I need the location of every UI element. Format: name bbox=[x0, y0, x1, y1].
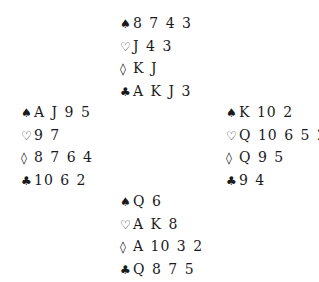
diamond-icon: ◊ bbox=[120, 236, 131, 259]
club-icon: ♣ bbox=[120, 81, 131, 104]
heart-icon: ♡ bbox=[120, 36, 131, 59]
east-hearts: ♡Q 10 6 5 2 bbox=[226, 124, 319, 147]
hand-west: ♠A J 9 5 ♡9 7 ◊8 7 6 4 ♣10 6 2 bbox=[21, 101, 93, 191]
diamond-icon: ◊ bbox=[21, 147, 32, 170]
south-hearts-cards: A K 8 bbox=[133, 213, 178, 236]
diamond-icon: ◊ bbox=[226, 147, 237, 170]
west-hearts: ♡9 7 bbox=[21, 124, 93, 147]
south-spades: ♠Q 6 bbox=[120, 190, 203, 213]
south-clubs-cards: Q 8 7 5 bbox=[133, 258, 195, 281]
west-hearts-cards: 9 7 bbox=[34, 124, 60, 147]
south-hearts: ♡A K 8 bbox=[120, 213, 203, 236]
west-spades-cards: A J 9 5 bbox=[34, 101, 91, 124]
heart-icon: ♡ bbox=[120, 214, 131, 237]
east-clubs: ♣9 4 bbox=[226, 169, 319, 192]
south-spades-cards: Q 6 bbox=[133, 190, 162, 213]
north-hearts: ♡J 4 3 bbox=[120, 35, 192, 58]
west-diamonds-cards: 8 7 6 4 bbox=[34, 146, 93, 169]
north-diamonds: ◊K J bbox=[120, 57, 192, 80]
club-icon: ♣ bbox=[120, 259, 131, 282]
west-clubs-cards: 10 6 2 bbox=[34, 169, 87, 192]
west-clubs: ♣10 6 2 bbox=[21, 169, 93, 192]
north-spades: ♠8 7 4 3 bbox=[120, 12, 192, 35]
east-clubs-cards: 9 4 bbox=[239, 169, 265, 192]
east-diamonds-cards: Q 9 5 bbox=[239, 146, 284, 169]
club-icon: ♣ bbox=[226, 170, 237, 193]
spade-icon: ♠ bbox=[226, 102, 237, 125]
spade-icon: ♠ bbox=[21, 102, 32, 125]
north-spades-cards: 8 7 4 3 bbox=[133, 12, 192, 35]
south-diamonds: ◊A 10 3 2 bbox=[120, 235, 203, 258]
hand-south: ♠Q 6 ♡A K 8 ◊A 10 3 2 ♣Q 8 7 5 bbox=[120, 190, 203, 280]
east-spades: ♠K 10 2 bbox=[226, 101, 319, 124]
north-clubs: ♣A K J 3 bbox=[120, 80, 192, 103]
south-clubs: ♣Q 8 7 5 bbox=[120, 258, 203, 281]
heart-icon: ♡ bbox=[226, 125, 237, 148]
spade-icon: ♠ bbox=[120, 13, 131, 36]
diamond-icon: ◊ bbox=[120, 58, 131, 81]
north-hearts-cards: J 4 3 bbox=[133, 35, 172, 58]
hand-north: ♠8 7 4 3 ♡J 4 3 ◊K J ♣A K J 3 bbox=[120, 12, 192, 102]
club-icon: ♣ bbox=[21, 170, 32, 193]
west-spades: ♠A J 9 5 bbox=[21, 101, 93, 124]
spade-icon: ♠ bbox=[120, 191, 131, 214]
north-diamonds-cards: K J bbox=[133, 57, 158, 80]
east-diamonds: ◊Q 9 5 bbox=[226, 146, 319, 169]
hand-east: ♠K 10 2 ♡Q 10 6 5 2 ◊Q 9 5 ♣9 4 bbox=[226, 101, 319, 191]
west-diamonds: ◊8 7 6 4 bbox=[21, 146, 93, 169]
heart-icon: ♡ bbox=[21, 125, 32, 148]
north-clubs-cards: A K J 3 bbox=[133, 80, 191, 103]
east-hearts-cards: Q 10 6 5 2 bbox=[239, 124, 319, 147]
south-diamonds-cards: A 10 3 2 bbox=[133, 235, 203, 258]
east-spades-cards: K 10 2 bbox=[239, 101, 293, 124]
